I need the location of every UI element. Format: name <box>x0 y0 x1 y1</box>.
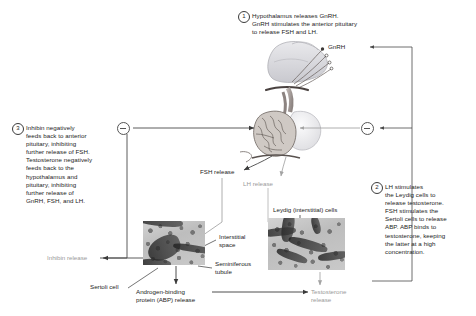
fsh-release-label: FSH release <box>200 168 234 176</box>
lh-release-label: LH release <box>243 180 273 188</box>
step-2-number: 2 <box>371 182 383 194</box>
testosterone-release-label: Testosterone release <box>311 288 346 303</box>
testosterone-negative-feedback-node <box>361 122 374 135</box>
endocrine-feedback-diagram: 1 Hypothalamus releases GnRH. GnRH stimu… <box>0 0 476 316</box>
step-3-text: Inhibin negatively feeds back to anterio… <box>26 124 118 205</box>
leydig-cells-label: Leydig (interstitial) cells <box>273 206 337 214</box>
interstitial-space-label: Interstitial space <box>219 233 245 248</box>
abp-release-label: Androgen-binding protein (ABP) release <box>136 288 195 303</box>
step-1-text: Hypothalamus releases GnRH. GnRH stimula… <box>252 12 452 36</box>
seminiferous-tubule-label: Seminiferous tubule <box>215 260 251 275</box>
inhibin-release-label: Inhibin release <box>47 254 87 262</box>
seminiferous-tubule-micrograph <box>143 221 205 265</box>
step-3-number: 3 <box>12 123 24 135</box>
step-2-text: LH stimulates the Leydig cells to releas… <box>385 183 473 256</box>
gnrh-label: GnRH <box>328 43 345 51</box>
step-1-number: 1 <box>238 11 250 23</box>
leydig-cells-micrograph <box>268 218 345 270</box>
inhibin-negative-feedback-node <box>117 122 130 135</box>
sertoli-cell-label: Sertoli cell <box>90 283 119 291</box>
